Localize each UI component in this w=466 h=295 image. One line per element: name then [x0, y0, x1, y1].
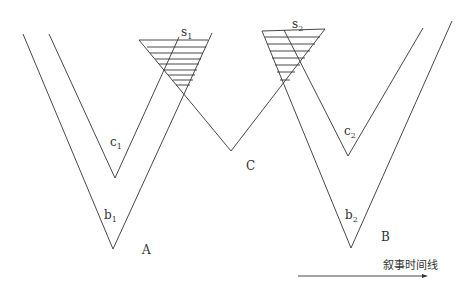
label-b2: b2 — [345, 209, 358, 224]
label-s1: s1 — [181, 26, 192, 41]
label-B: B — [381, 231, 390, 243]
label-A: A — [142, 244, 151, 256]
diagram: s1 s2 c1 c2 b1 b2 A B C 叙事时间线 — [0, 0, 466, 295]
diagram-lines — [0, 0, 466, 295]
label-c1: c1 — [110, 136, 122, 151]
label-c2: c2 — [344, 125, 356, 140]
label-b1: b1 — [104, 209, 117, 224]
timeline-label: 叙事时间线 — [383, 256, 438, 272]
label-s2: s2 — [292, 18, 303, 33]
label-C: C — [246, 160, 255, 172]
